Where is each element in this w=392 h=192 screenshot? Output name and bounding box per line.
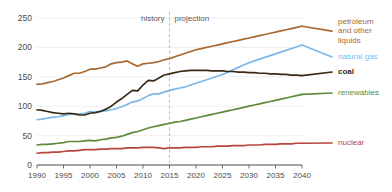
x-tick-label-2020: 2020 xyxy=(187,171,205,180)
series-label-natural-gas: natural gas xyxy=(338,52,378,61)
xtick-labels-group: 1990199520002005201020152020202520302035… xyxy=(28,171,311,180)
series-leader-line-petroleum-and-other-liquids xyxy=(302,26,332,31)
y-tick-label-200: 200 xyxy=(18,42,32,52)
y-tick-label-50: 50 xyxy=(23,131,33,141)
series-label-nuclear: nuclear xyxy=(338,138,365,147)
x-tick-label-2035: 2035 xyxy=(267,171,285,180)
y-tick-label-0: 0 xyxy=(27,160,32,170)
series-label-coal: coal xyxy=(338,67,354,76)
x-tick-label-2030: 2030 xyxy=(240,171,258,180)
chart-canvas: 050100150200250 199019952000200520102015… xyxy=(0,0,392,192)
y-tick-label-250: 250 xyxy=(18,13,32,23)
ytick-labels-group: 050100150200250 xyxy=(18,13,32,170)
x-tick-label-2015: 2015 xyxy=(161,171,179,180)
x-tick-label-2010: 2010 xyxy=(134,171,152,180)
series-label-petroleum-and-other-liquids: and other xyxy=(338,26,372,35)
series-label-petroleum-and-other-liquids: liquids xyxy=(338,36,361,45)
series-labels-group: petroleumand otherliquidsnatural gascoal… xyxy=(302,17,379,147)
phase-annotations-group: historyprojection xyxy=(141,14,209,23)
x-tick-label-1990: 1990 xyxy=(28,171,46,180)
annotation-history: history xyxy=(141,14,165,23)
x-tick-label-2025: 2025 xyxy=(214,171,232,180)
x-tick-label-1995: 1995 xyxy=(55,171,73,180)
series-leader-line-coal xyxy=(302,72,332,76)
axes-group xyxy=(37,165,302,169)
energy-consumption-line-chart: 050100150200250 199019952000200520102015… xyxy=(0,0,392,192)
annotation-projection: projection xyxy=(175,14,210,23)
x-tick-label-2005: 2005 xyxy=(108,171,126,180)
series-leader-line-renewables xyxy=(302,93,332,94)
series-leader-line-natural-gas xyxy=(302,45,332,57)
x-tick-label-2040: 2040 xyxy=(293,171,311,180)
series-label-petroleum-and-other-liquids: petroleum xyxy=(338,17,374,26)
y-tick-label-100: 100 xyxy=(18,101,32,111)
x-tick-label-2000: 2000 xyxy=(81,171,99,180)
series-label-renewables: renewables xyxy=(338,88,379,97)
y-tick-label-150: 150 xyxy=(18,72,32,82)
